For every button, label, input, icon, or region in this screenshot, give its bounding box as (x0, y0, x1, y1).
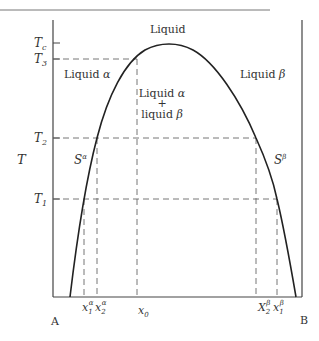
component-a: A (50, 315, 60, 328)
y-axis-label: T (17, 152, 27, 167)
component-b: B (300, 314, 308, 327)
label-t3: T3 (34, 52, 47, 68)
label-s-beta: Sβ (274, 153, 286, 167)
label-x2-beta: X2β (257, 299, 271, 316)
label-x1-beta: x1β (273, 299, 284, 316)
label-t1: T1 (34, 192, 47, 208)
label-tc: Tc (34, 36, 47, 52)
region-liquid: Liquid (150, 23, 186, 36)
label-s-alpha: Sα (74, 153, 87, 167)
label-t2: T2 (34, 131, 47, 147)
region-liquid-alpha: Liquid α (64, 68, 111, 81)
phase-diagram: Tc T3 T2 T1 T Liquid Liquid α Liquid β L… (0, 0, 319, 341)
label-x2-alpha: x2α (95, 299, 107, 316)
label-x0: x0 (138, 304, 149, 319)
region-two-phase-line2: liquid β (141, 108, 183, 121)
coexistence-curve (70, 44, 296, 297)
label-x1-alpha: x1α (82, 299, 94, 316)
region-liquid-beta: Liquid β (240, 68, 285, 81)
